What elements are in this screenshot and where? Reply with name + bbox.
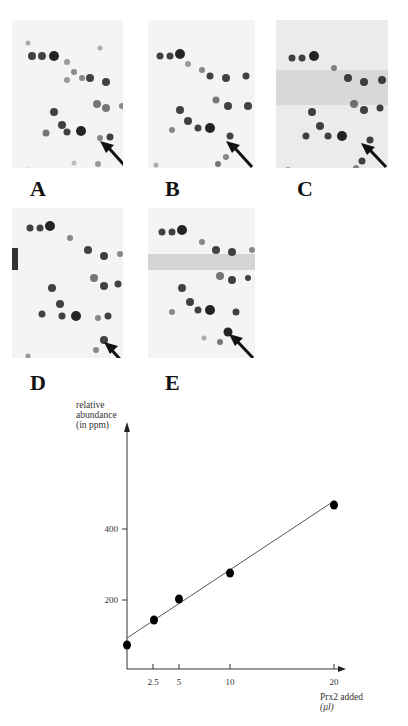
data-point (330, 501, 338, 510)
data-point (175, 595, 183, 604)
x-tick-label: 10 (226, 677, 236, 687)
y-axis-arrow-icon (124, 422, 130, 432)
panel-label-a: A (30, 176, 46, 202)
gel-spots-d (12, 208, 123, 358)
data-point (150, 616, 158, 625)
gel-panel-a (12, 20, 123, 168)
scatter-chart: 400 200 2.5 5 10 20 (0, 390, 408, 726)
data-point (226, 569, 234, 578)
x-axis-label-line: Prx2 added (320, 692, 363, 702)
gel-spots-c (276, 20, 388, 168)
x-tick-label: 20 (330, 677, 340, 687)
x-axis-arrow-icon (338, 666, 346, 672)
gel-panel-b (148, 20, 255, 168)
gel-panel-c (276, 20, 388, 168)
x-tick-label: 5 (177, 677, 182, 687)
gel-panel-d (12, 208, 123, 358)
y-tick-label: 400 (105, 524, 119, 534)
x-axis-label-line: (μl) (320, 702, 363, 712)
y-tick-label: 200 (105, 595, 119, 605)
panel-label-c: C (297, 176, 313, 202)
panel-label-b: B (165, 176, 180, 202)
gel-spots-b (148, 20, 255, 168)
gel-spots-e (148, 208, 255, 358)
x-axis-label: Prx2 added (μl) (320, 692, 363, 712)
data-point (123, 641, 131, 650)
gel-panel-e (148, 208, 255, 358)
x-tick-label: 2.5 (147, 677, 159, 687)
gel-spots-a (12, 20, 123, 168)
